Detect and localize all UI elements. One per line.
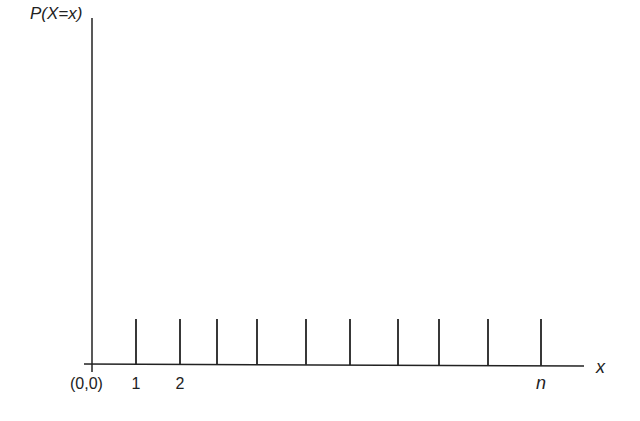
tick-label: n [536, 373, 546, 393]
x-axis-line [84, 364, 584, 366]
origin-label: (0,0) [70, 375, 103, 392]
y-axis-label: P(X=x) [30, 4, 82, 23]
stem-plot: P(X=x) x (0,0) 12n [0, 0, 640, 421]
tick-label: 2 [176, 375, 185, 392]
axes [84, 18, 584, 372]
stems [136, 319, 541, 366]
tick-labels: 12n [132, 373, 546, 393]
x-axis-label: x [595, 357, 606, 377]
tick-label: 1 [132, 375, 141, 392]
